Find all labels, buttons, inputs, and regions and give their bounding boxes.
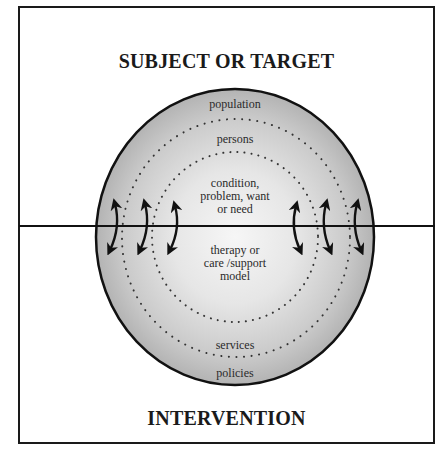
services-label: services [185, 339, 285, 352]
policies-label: policies [185, 367, 285, 380]
population-label: population [185, 98, 285, 111]
intervention-heading: INTERVENTION [18, 407, 435, 430]
subject-or-target-heading: SUBJECT OR TARGET [18, 50, 435, 73]
therapy-label: therapy or care /support model [170, 244, 300, 283]
persons-label: persons [185, 133, 285, 146]
condition-label: condition, problem, want or need [170, 177, 300, 216]
